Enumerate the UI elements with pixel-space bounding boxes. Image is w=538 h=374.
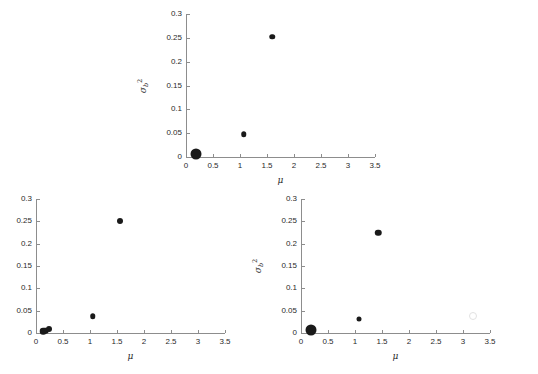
y-tick-label-bottom-left-5: 0.25	[5, 217, 32, 225]
x-tick-label-bottom-right-6: 3	[461, 338, 465, 346]
y-tick-label-bottom-left-1: 0.05	[5, 307, 32, 315]
y-axis-label-subscript-top: b	[142, 82, 150, 86]
y-tick-label-top-5: 0.25	[155, 34, 182, 42]
data-point-bottom-right-2	[375, 230, 382, 237]
data-point-bottom-right-1	[356, 316, 361, 321]
plot-area-bottom-left: 00.511.522.533.500.050.10.150.20.250.3μσ…	[36, 199, 225, 333]
data-point-top-1	[241, 131, 247, 137]
y-tick-label-top-4: 0.2	[155, 58, 182, 66]
x-tick-label-top-3: 1.5	[261, 162, 272, 170]
y-tick-label-bottom-left-6: 0.3	[5, 195, 32, 203]
y-tick-top-3	[187, 86, 190, 87]
y-tick-label-top-1: 0.05	[155, 129, 182, 137]
x-tick-label-bottom-left-7: 3.5	[219, 338, 230, 346]
y-tick-bottom-left-2	[37, 288, 40, 289]
x-tick-label-bottom-right-2: 1	[353, 338, 357, 346]
y-tick-top-6	[187, 14, 190, 15]
x-tick-label-bottom-left-6: 3	[196, 338, 200, 346]
plot-area-top: 00.511.522.533.500.050.10.150.20.250.3μσ…	[186, 14, 375, 157]
x-tick-bottom-left-6	[198, 330, 199, 333]
x-tick-bottom-right-2	[355, 330, 356, 333]
x-tick-label-top-2: 1	[238, 162, 242, 170]
data-point-faint-bottom-right-0	[469, 312, 477, 320]
x-tick-label-top-1: 0.5	[207, 162, 218, 170]
x-tick-top-5	[321, 154, 322, 157]
y-tick-top-5	[187, 38, 190, 39]
y-tick-bottom-right-6	[302, 199, 305, 200]
y-tick-bottom-right-2	[302, 288, 305, 289]
y-tick-top-0	[187, 157, 190, 158]
data-point-top-2	[270, 34, 276, 40]
x-tick-bottom-right-1	[328, 330, 329, 333]
chart-panel-bottom-left: 00.511.522.533.500.050.10.150.20.250.3μσ…	[36, 199, 225, 333]
y-tick-label-bottom-left-3: 0.15	[5, 262, 32, 270]
x-tick-label-bottom-left-3: 1.5	[111, 338, 122, 346]
x-tick-bottom-left-4	[144, 330, 145, 333]
y-tick-bottom-right-1	[302, 311, 305, 312]
x-tick-bottom-left-2	[90, 330, 91, 333]
x-tick-label-top-4: 2	[292, 162, 296, 170]
y-tick-label-bottom-right-0: 0	[270, 329, 297, 337]
x-tick-label-bottom-right-5: 2.5	[430, 338, 441, 346]
x-tick-top-4	[294, 154, 295, 157]
y-tick-label-bottom-right-2: 0.1	[270, 284, 297, 292]
data-point-top-0	[191, 148, 202, 159]
y-axis-label-symbol-bottom-right: σ	[253, 267, 263, 273]
x-tick-bottom-right-5	[436, 330, 437, 333]
y-tick-label-bottom-right-6: 0.3	[270, 195, 297, 203]
y-axis-label-superscript-top: 2	[136, 78, 144, 82]
x-tick-label-bottom-right-4: 2	[407, 338, 411, 346]
y-tick-label-top-6: 0.3	[155, 10, 182, 18]
plot-area-bottom-right: 00.511.522.533.500.050.10.150.20.250.3μσ…	[301, 199, 490, 333]
y-tick-label-bottom-left-0: 0	[5, 329, 32, 337]
y-axis-label-symbol-top: σ	[138, 87, 148, 93]
data-point-bottom-left-4	[117, 218, 123, 224]
y-tick-bottom-right-4	[302, 244, 305, 245]
y-tick-bottom-left-4	[37, 244, 40, 245]
x-tick-label-bottom-left-1: 0.5	[57, 338, 68, 346]
y-axis-label-superscript-bottom-right: 2	[251, 259, 259, 263]
x-tick-label-bottom-right-0: 0	[299, 338, 303, 346]
x-tick-label-bottom-left-4: 2	[142, 338, 146, 346]
y-tick-label-bottom-left-2: 0.1	[5, 284, 32, 292]
y-tick-label-top-3: 0.15	[155, 82, 182, 90]
chart-panel-bottom-right: 00.511.522.533.500.050.10.150.20.250.3μσ…	[301, 199, 490, 333]
y-tick-label-bottom-right-1: 0.05	[270, 307, 297, 315]
y-tick-label-top-2: 0.1	[155, 105, 182, 113]
x-tick-label-top-0: 0	[184, 162, 188, 170]
y-tick-bottom-right-0	[302, 333, 305, 334]
y-tick-bottom-left-3	[37, 266, 40, 267]
x-tick-label-bottom-right-3: 1.5	[376, 338, 387, 346]
data-point-bottom-right-0	[306, 324, 317, 335]
chart-panel-top: 00.511.522.533.500.050.10.150.20.250.3μσ…	[186, 14, 375, 157]
y-tick-top-2	[187, 109, 190, 110]
y-tick-top-1	[187, 133, 190, 134]
y-tick-top-4	[187, 62, 190, 63]
x-tick-bottom-right-3	[382, 330, 383, 333]
x-tick-top-2	[240, 154, 241, 157]
y-tick-bottom-left-5	[37, 221, 40, 222]
y-tick-label-bottom-right-4: 0.2	[270, 240, 297, 248]
x-axis-line-bottom-right	[301, 333, 490, 334]
x-axis-label-bottom-right: μ	[393, 351, 399, 361]
x-tick-top-1	[213, 154, 214, 157]
y-axis-label-subscript-bottom-right: b	[257, 263, 265, 267]
x-tick-bottom-left-1	[63, 330, 64, 333]
x-tick-bottom-right-7	[490, 330, 491, 333]
x-tick-bottom-left-3	[117, 330, 118, 333]
x-tick-label-bottom-right-1: 0.5	[322, 338, 333, 346]
x-tick-label-bottom-left-5: 2.5	[165, 338, 176, 346]
y-tick-bottom-left-1	[37, 311, 40, 312]
x-tick-top-3	[267, 154, 268, 157]
y-tick-bottom-right-5	[302, 221, 305, 222]
x-tick-label-bottom-left-0: 0	[34, 338, 38, 346]
y-tick-label-bottom-right-5: 0.25	[270, 217, 297, 225]
x-tick-top-7	[375, 154, 376, 157]
x-tick-bottom-left-5	[171, 330, 172, 333]
x-tick-label-top-6: 3	[346, 162, 350, 170]
y-tick-label-bottom-left-4: 0.2	[5, 240, 32, 248]
y-axis-label-bottom-right: σb2	[251, 255, 266, 277]
x-tick-label-bottom-right-7: 3.5	[484, 338, 495, 346]
y-axis-label-top: σb2	[136, 75, 151, 97]
data-point-bottom-left-2	[46, 326, 52, 332]
